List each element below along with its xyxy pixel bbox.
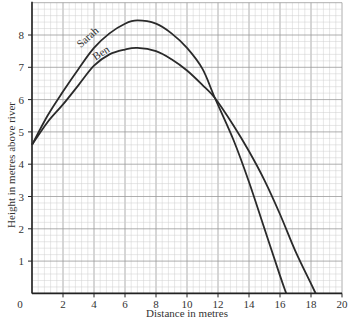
trajectory-chart: 0246810121416182012345678 Distance in me… bbox=[0, 0, 353, 322]
y-tick-label: 6 bbox=[19, 94, 25, 106]
x-axis-title: Distance in metres bbox=[146, 307, 228, 319]
curve-sarah bbox=[32, 20, 286, 293]
y-axis-title: Height in metres above river bbox=[5, 102, 17, 228]
x-tick-label: 6 bbox=[122, 298, 128, 310]
curve-label-ben: Ben bbox=[90, 43, 112, 63]
y-tick-label: 4 bbox=[19, 158, 25, 170]
y-tick-label: 5 bbox=[19, 126, 25, 138]
x-tick-label: 14 bbox=[244, 298, 256, 310]
series-group bbox=[32, 20, 316, 293]
x-tick-label: 18 bbox=[306, 298, 318, 310]
y-tick-label: 1 bbox=[19, 255, 25, 267]
x-tick-label: 2 bbox=[60, 298, 66, 310]
x-tick-label: 4 bbox=[91, 298, 97, 310]
x-tick-label: 16 bbox=[275, 298, 287, 310]
y-tick-label: 2 bbox=[19, 223, 25, 235]
x-tick-label: 0 bbox=[17, 298, 23, 310]
y-tick-label: 7 bbox=[19, 61, 25, 73]
x-tick-label: 20 bbox=[337, 298, 349, 310]
y-tick-label: 3 bbox=[19, 191, 25, 203]
y-tick-label: 8 bbox=[19, 29, 25, 41]
